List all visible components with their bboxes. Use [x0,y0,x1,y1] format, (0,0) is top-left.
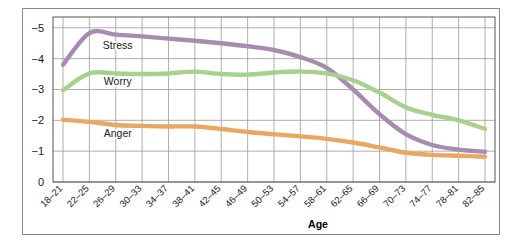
x-tick-label: 66–69 [354,183,380,209]
x-tick-label: 54–57 [275,183,301,209]
chart-figure: −5−4−3−2−10 18–2122–2526–2930–3334–3738–… [0,0,524,245]
y-tick-label: −2 [31,114,44,126]
x-axis-title: Age [308,218,328,230]
x-tick-label: 82–85 [460,183,486,209]
series-label-stress: Stress [103,39,133,51]
x-tick-label: 38–41 [170,183,196,209]
y-tick-label: −1 [31,145,44,157]
series-label-anger: Anger [104,127,133,139]
x-tick-label: 26–29 [91,183,117,209]
y-tick-label: −4 [31,53,44,65]
series-label-worry: Worry [104,75,133,87]
x-axis-tick-labels: 18–2122–2526–2930–3334–3738–4142–4546–49… [38,183,486,209]
x-tick-label: 58–61 [302,183,328,209]
x-tick-label: 46–49 [223,183,249,209]
y-tick-label: 0 [38,176,44,188]
x-tick-label: 50–53 [249,183,275,209]
x-tick-label: 78–81 [434,183,460,209]
y-axis-tick-labels: −5−4−3−2−10 [31,22,44,188]
line-chart: −5−4−3−2−10 18–2122–2526–2930–3334–3738–… [0,0,524,245]
x-tick-label: 22–25 [64,183,90,209]
x-tick-label: 70–73 [381,183,407,209]
y-tick-label: −5 [31,22,44,34]
x-tick-label: 74–77 [407,183,433,209]
x-tick-label: 42–45 [196,183,222,209]
x-tick-label: 34–37 [143,183,169,209]
y-tick-label: −3 [31,83,44,95]
x-tick-label: 30–33 [117,183,143,209]
x-tick-label: 62–65 [328,183,354,209]
